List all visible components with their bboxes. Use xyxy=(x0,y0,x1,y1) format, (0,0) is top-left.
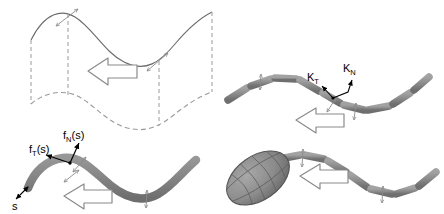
rod-segment xyxy=(396,188,415,194)
rod-segment xyxy=(393,93,410,104)
rod-segment xyxy=(228,88,247,100)
f-normal-label: fN(s) xyxy=(63,129,84,144)
panel-top-left xyxy=(31,9,212,130)
panel-bottom-left: fT(s) fN(s) s xyxy=(12,129,196,212)
rod-segment xyxy=(304,155,324,159)
figure-canvas: KT KN fT(s) fN(s) s xyxy=(0,0,444,214)
panel-bottom-right xyxy=(215,138,436,214)
upper-solid-curve xyxy=(31,12,212,66)
ellipsoid-outline xyxy=(217,140,300,214)
direction-block-arrow xyxy=(88,58,137,85)
joint-tick-arrow xyxy=(260,74,261,90)
normal-tick-arrow xyxy=(147,53,168,71)
normal-tick-arrow xyxy=(146,190,147,208)
arclength-label: s xyxy=(12,200,18,212)
rod-segment xyxy=(368,106,389,110)
direction-block-arrow xyxy=(64,184,112,209)
joint-tick-arrow xyxy=(302,149,303,167)
rod-segment xyxy=(414,77,429,90)
arclength-arrow xyxy=(16,187,28,199)
direction-block-arrow xyxy=(296,108,344,133)
rod-segment xyxy=(344,105,364,110)
lower-dashed-curve xyxy=(31,92,212,130)
figure-root: KT KN fT(s) fN(s) s xyxy=(0,0,444,214)
rod-segment xyxy=(350,175,367,187)
normal-tick-arrow xyxy=(64,170,79,182)
force-anchor-point xyxy=(68,161,71,164)
rod-segment xyxy=(275,78,296,79)
ellipsoidal-body xyxy=(215,138,302,214)
rod-segment xyxy=(371,189,392,194)
panel-top-right: KT KN xyxy=(228,62,429,133)
k-leader-anchor xyxy=(331,96,334,99)
normal-tick-arrow xyxy=(56,9,78,26)
k-normal-label: KN xyxy=(343,62,356,77)
k-normal-leader xyxy=(333,80,352,98)
rod-segment xyxy=(419,172,436,186)
